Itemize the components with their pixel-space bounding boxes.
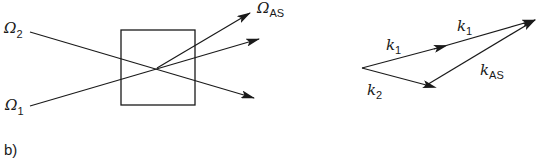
kAS-label: kAS — [480, 61, 504, 81]
k1-second-vector — [434, 20, 535, 49]
k1-first-label: k1 — [386, 36, 401, 56]
omega2-label: Ω2 — [3, 19, 23, 40]
k1-first-vector — [362, 47, 441, 68]
beam-geometry: Ω2 Ω1 ΩAS — [3, 0, 284, 117]
omegaAS-label: ΩAS — [256, 0, 284, 19]
phase-matching-diagram: Ω2 Ω1 ΩAS k1 k1 k2 kAS b) — [0, 0, 539, 166]
omegaAS-beam-arrow — [157, 13, 250, 68]
omega1-label: Ω1 — [4, 96, 24, 117]
k2-label: k2 — [367, 81, 382, 101]
omega2-beam-arrow — [30, 32, 254, 98]
wavevector-diagram: k1 k1 k2 kAS — [362, 17, 535, 101]
panel-label: b) — [4, 141, 17, 158]
k1-second-label: k1 — [457, 17, 472, 37]
omega1-beam-arrow — [30, 39, 259, 106]
